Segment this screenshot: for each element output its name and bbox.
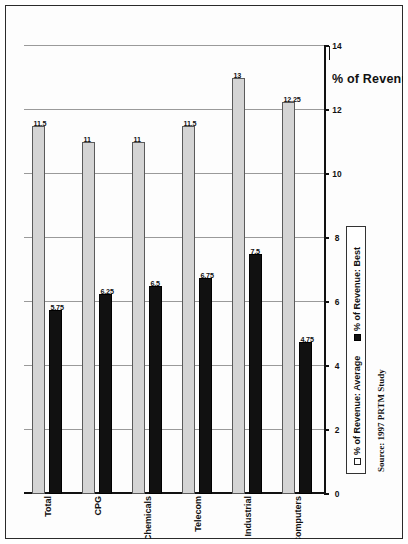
bar-average [282, 102, 295, 494]
bar-value-label-average: 11.5 [34, 119, 47, 128]
bar-value-label-best: 6.25 [101, 287, 114, 296]
category-label: Telecom [193, 496, 203, 532]
bar-value-label-average: 11 [134, 135, 141, 144]
x-axis-title: % of Revenue [332, 72, 403, 86]
bar-value-label-best: 6.75 [201, 271, 214, 280]
gridline [24, 46, 324, 47]
axis-tick-label: 10 [325, 169, 349, 179]
open-square-icon [354, 458, 361, 465]
category-label: CPG [93, 496, 103, 516]
gridline [24, 238, 324, 239]
bar-best [49, 310, 62, 494]
legend-item: % of Revenue: Best [352, 247, 362, 341]
scanned-page: % of Revenue 02468101214 12.254.75137.51… [0, 0, 408, 544]
legend-item: % of Revenue: Average [352, 356, 362, 465]
category-label: Total [43, 496, 53, 517]
bar-value-label-average: 11 [84, 135, 91, 144]
axis-tick-label: 14 [325, 41, 349, 51]
bar-average [232, 78, 245, 494]
gridline [24, 430, 324, 431]
category-label: Industrial [243, 496, 253, 537]
gridline [24, 110, 324, 111]
plot-area [24, 46, 324, 494]
legend: % of Revenue: Average% of Revenue: Best [346, 226, 366, 474]
bar-value-label-best: 5.75 [51, 303, 64, 312]
legend-label: % of Revenue: Best [352, 247, 362, 331]
bar-value-label-best: 7.5 [251, 247, 260, 256]
gridline [24, 366, 324, 367]
category-label: Chemicals [143, 496, 153, 539]
axis-tick-label: 0 [325, 489, 349, 499]
gridline [24, 174, 324, 175]
bar-best [99, 294, 112, 494]
filled-square-icon [354, 334, 361, 341]
bar-value-label-average: 13 [234, 71, 242, 80]
rotated-chart-wrapper: % of Revenue 02468101214 12.254.75137.51… [5, 5, 403, 539]
bar-average [182, 126, 195, 494]
legend-label: % of Revenue: Average [352, 356, 362, 455]
bar-value-label-average: 11.5 [184, 119, 197, 128]
category-label: Computers [293, 496, 303, 539]
bar-value-label-best: 4.75 [301, 335, 314, 344]
source-note: Source: 1997 PRTM Study [376, 369, 386, 472]
bar-average [32, 126, 45, 494]
bar-value-label-best: 6.5 [151, 279, 160, 288]
bar-value-label-average: 12.25 [284, 95, 301, 104]
bar-chart: % of Revenue 02468101214 12.254.75137.51… [10, 10, 398, 534]
bar-average [82, 142, 95, 494]
bar-average [132, 142, 145, 494]
bar-best [149, 286, 162, 494]
bar-best [249, 254, 262, 494]
value-axis-line [24, 492, 324, 494]
bar-best [299, 342, 312, 494]
axis-tick-label: 12 [325, 105, 349, 115]
bar-best [199, 278, 212, 494]
gridline [24, 302, 324, 303]
